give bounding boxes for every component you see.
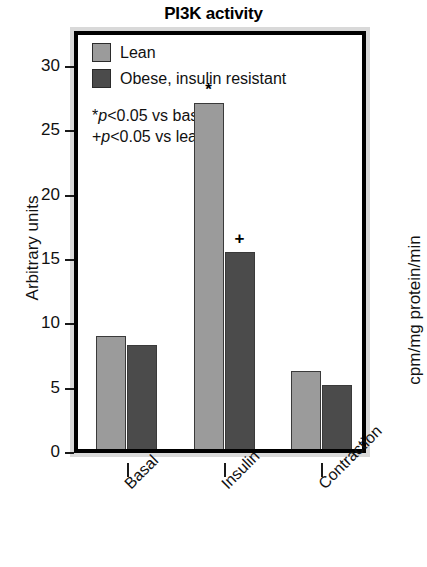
plot-frame-inner: Lean Obese, insulin resistant *p<0.05 vs… [74, 31, 366, 453]
plot-frame: Lean Obese, insulin resistant *p<0.05 vs… [70, 27, 370, 457]
legend-label-lean: Lean [120, 44, 156, 62]
y-axis-label-right: cpm/mg protein/min [405, 195, 425, 425]
plot-area: Lean Obese, insulin resistant *p<0.05 vs… [78, 35, 362, 449]
bar-insulin-lean [194, 103, 224, 449]
y-tick-mark [65, 259, 74, 261]
legend-swatch-lean [92, 43, 111, 62]
significance-marker-insulin-lean: * [188, 81, 230, 98]
bar-insulin-obese [225, 252, 255, 449]
y-axis-label-left: Arbitrary units [23, 153, 43, 343]
significance-marker-insulin-obese: + [219, 230, 261, 247]
y-tick-mark [65, 195, 74, 197]
y-tick-mark [65, 130, 74, 132]
y-tick-mark [65, 323, 74, 325]
bar-contraction-lean [291, 371, 321, 449]
y-tick-label: 5 [26, 378, 60, 398]
y-tick-label: 25 [26, 120, 60, 140]
legend-swatch-obese [92, 69, 111, 88]
page-title: PI3K activity [0, 4, 427, 24]
y-tick-label: 0 [26, 442, 60, 462]
stat-italic-p-1: p [98, 107, 107, 124]
stat-marker-plus: + [92, 128, 101, 145]
figure-pi3k-activity: PI3K activity Lean Obese, insulin resist… [0, 0, 427, 567]
y-tick-mark [65, 452, 74, 454]
bar-basal-obese [127, 345, 157, 449]
y-tick-label: 30 [26, 56, 60, 76]
legend-item-lean: Lean [92, 43, 360, 62]
y-tick-mark [65, 388, 74, 390]
bar-contraction-obese [322, 385, 352, 449]
y-tick-mark [65, 66, 74, 68]
stat-italic-p-2: p [101, 128, 110, 145]
stat-rest-2: <0.05 vs lean [110, 128, 206, 145]
bar-basal-lean [96, 336, 126, 449]
